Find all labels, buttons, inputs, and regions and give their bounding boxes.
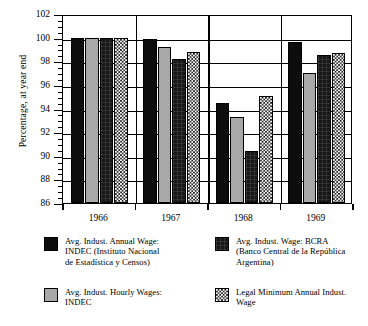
legend-swatch-checkerboard	[215, 288, 229, 302]
legend-item: Legal Minimum Annual Indust. Wage	[215, 287, 365, 308]
legend-swatch-solid-gray	[44, 288, 58, 302]
group-separator	[136, 16, 138, 203]
x-axis-label-1969: 1969	[280, 213, 353, 223]
y-axis-tick-label: 92	[22, 127, 50, 137]
group-separator	[281, 16, 283, 203]
y-axis-tick-label: 94	[22, 104, 50, 114]
bar-1966-series-2	[100, 38, 114, 203]
y-axis-tick-label: 90	[22, 151, 50, 161]
bar-1966-series-0	[71, 38, 85, 203]
chart-figure: Percentage, at year end 8688909294969810…	[0, 0, 368, 326]
y-axis-tick-label: 98	[22, 56, 50, 66]
y-axis-tick-label: 102	[22, 9, 50, 19]
legend-item: Avg. Indust. Annual Wage: INDEC (Institu…	[44, 236, 204, 267]
legend-label: Avg. Indust. Wage: BCRA (Banco Central d…	[236, 236, 345, 267]
x-axis-tick	[62, 204, 64, 210]
bar-1968-series-2	[245, 151, 259, 203]
legend-label: Legal Minimum Annual Indust. Wage	[236, 287, 346, 308]
bar-1969-series-3	[332, 53, 346, 203]
bar-1967-series-2	[172, 59, 186, 203]
group-separator	[208, 16, 210, 203]
x-axis-tick	[280, 204, 282, 210]
x-axis-tick	[352, 204, 354, 210]
bar-1967-series-3	[187, 52, 201, 203]
bar-1969-series-0	[288, 42, 302, 203]
bar-1966-series-3	[114, 38, 128, 203]
legend-item: Avg. Indust. Hourly Wages: INDEC	[44, 287, 204, 308]
legend-label: Avg. Indust. Hourly Wages: INDEC	[65, 287, 162, 308]
bar-1968-series-0	[216, 103, 230, 203]
bar-1966-series-1	[85, 38, 99, 203]
bar-1969-series-1	[303, 73, 317, 203]
legend-swatch-dark-textured	[215, 237, 229, 251]
y-axis-tick-label: 88	[22, 174, 50, 184]
chart-legend: Avg. Indust. Annual Wage: INDEC (Institu…	[0, 230, 368, 326]
x-axis-label-1966: 1966	[62, 213, 135, 223]
y-axis-tick-label: 86	[22, 198, 50, 208]
x-axis-label-1968: 1968	[207, 213, 280, 223]
y-axis-tick-label: 96	[22, 80, 50, 90]
legend-item: Avg. Indust. Wage: BCRA (Banco Central d…	[215, 236, 365, 267]
legend-label: Avg. Indust. Annual Wage: INDEC (Institu…	[65, 236, 159, 267]
x-axis-label-1967: 1967	[135, 213, 208, 223]
bar-1967-series-1	[158, 47, 172, 203]
bar-1967-series-0	[143, 39, 157, 203]
bar-1968-series-3	[259, 96, 273, 203]
x-axis-tick	[135, 204, 137, 210]
bar-1969-series-2	[317, 55, 331, 203]
plot-area	[62, 15, 352, 204]
bar-1968-series-1	[230, 117, 244, 203]
x-axis-tick	[207, 204, 209, 210]
legend-swatch-solid-black	[44, 237, 58, 251]
y-axis-tick-label: 100	[22, 33, 50, 43]
